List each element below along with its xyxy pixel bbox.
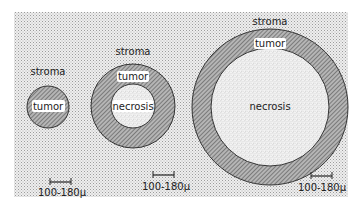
scale-label: 100-180μ <box>298 182 347 193</box>
tumor-growth-diagram: tumor stroma 100-180μ tumor necrosis str… <box>0 0 363 209</box>
stroma-label: stroma <box>115 46 150 57</box>
stroma-label: stroma <box>30 66 65 77</box>
scale-label: 100-180μ <box>38 187 87 198</box>
necrosis-label: necrosis <box>249 101 290 112</box>
tumor-label: tumor <box>255 38 286 49</box>
necrosis-label: necrosis <box>112 101 153 112</box>
tumor-label: tumor <box>118 71 149 82</box>
tumor-label: tumor <box>33 101 64 112</box>
stroma-label: stroma <box>252 16 287 27</box>
scale-label: 100-180μ <box>142 181 191 192</box>
